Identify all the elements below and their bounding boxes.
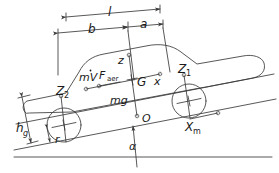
- label-dist-a: a: [140, 17, 147, 31]
- label-aero-force: F: [99, 69, 106, 82]
- label-inertia-force-text: mV: [79, 71, 99, 84]
- label-axis-x: x: [153, 75, 161, 88]
- label-aero-force-subscript: aer: [107, 75, 119, 83]
- label-normal-z1-subscript: 1: [186, 69, 191, 78]
- dimension-line-l: [66, 9, 160, 17]
- normal-force-z1-vector: [184, 75, 190, 118]
- label-wheel-radius-r: r: [55, 133, 61, 146]
- label-dist-b: b: [88, 22, 96, 36]
- vehicle-incline-diagram: l b a h g r mV F aer z G x mg O Z 1 Z 2 …: [0, 0, 279, 173]
- label-axis-z: z: [117, 54, 124, 67]
- normal-force-z2-vector: [61, 96, 66, 142]
- label-cg-point-g: G: [137, 75, 146, 89]
- label-axis-xm-subscript: m: [193, 127, 201, 136]
- label-height-hg-subscript: g: [23, 129, 28, 138]
- label-weight-mg: mg: [110, 94, 128, 107]
- axis-xm-arrow: [190, 113, 218, 119]
- label-normal-z2-subscript: 2: [64, 91, 69, 100]
- label-length-l: l: [108, 5, 112, 19]
- diagram-canvas: l b a h g r mV F aer z G x mg O Z 1 Z 2 …: [0, 0, 279, 173]
- vdot-accent-icon: [90, 70, 92, 72]
- dimension-line-r: [47, 128, 50, 142]
- label-angle-alpha: α: [129, 140, 137, 153]
- label-origin-o: O: [142, 112, 151, 125]
- label-inertia-force-mv: mV: [79, 70, 99, 84]
